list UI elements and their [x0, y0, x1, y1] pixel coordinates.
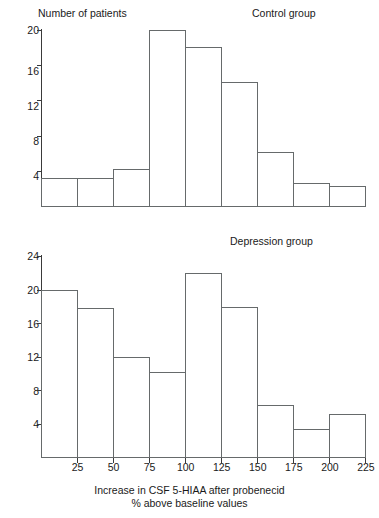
panel-control-group: Number of patients Control group 4 8 12 … [0, 0, 379, 228]
bar-depression-0-25 [42, 290, 78, 457]
bar-depression-25-50 [78, 309, 114, 458]
bar-depression-100-125 [186, 273, 222, 457]
bar-depression-50-75 [114, 357, 150, 457]
bar-control-150-175 [258, 152, 294, 207]
bar-control-25-50 [78, 178, 114, 206]
plot-area-control [0, 0, 379, 228]
bar-control-200-225 [330, 186, 366, 206]
bar-depression-75-100 [150, 372, 186, 457]
bar-depression-150-175 [258, 406, 294, 458]
bar-depression-125-150 [222, 308, 258, 458]
bar-depression-175-200 [294, 429, 330, 458]
bar-depression-200-225 [330, 414, 366, 458]
bar-control-0-25 [42, 178, 78, 206]
bar-control-175-200 [294, 184, 330, 207]
bar-control-50-75 [114, 170, 150, 207]
x-axis-title-line1: Increase in CSF 5-HIAA after probenecid [0, 484, 379, 497]
bar-control-75-100 [150, 31, 186, 207]
plot-area-depression [0, 228, 379, 478]
bar-control-100-125 [186, 47, 222, 206]
panel-depression-group: Depression group 4 8 12 16 20 24 25 50 7… [0, 228, 379, 478]
bar-control-125-150 [222, 82, 258, 206]
x-axis-title-line2: % above baseline values [0, 497, 379, 510]
histogram-figure: Number of patients Control group 4 8 12 … [0, 0, 379, 518]
